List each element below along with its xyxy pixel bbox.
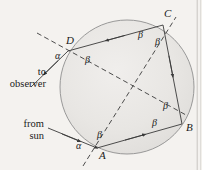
from-sun-line-2: sun: [0, 130, 44, 142]
angle-label-beta-b-upper: β: [163, 101, 168, 111]
vertex-label-c: C: [164, 8, 171, 19]
angle-label-beta-b-lower: β: [152, 118, 157, 128]
to-observer-line-2: observer: [0, 78, 46, 90]
vertex-label-a: A: [99, 150, 106, 161]
to-observer-line-1: to: [0, 66, 46, 78]
from-sun-line-1: from: [0, 118, 44, 130]
angle-label-beta-a: β: [97, 130, 102, 140]
to-observer-caption: to observer: [0, 66, 46, 90]
vertex-label-d: D: [66, 35, 74, 46]
from-sun-caption: from sun: [0, 118, 44, 142]
vertex-label-b: B: [186, 122, 193, 133]
raindrop-circle: [60, 20, 194, 154]
angle-label-beta-d: β: [85, 55, 90, 65]
angle-label-alpha-a: α: [76, 141, 81, 151]
angle-label-beta-c-right: β: [155, 37, 160, 47]
angle-label-alpha-d: α: [55, 51, 60, 61]
angle-label-beta-c-left: β: [138, 30, 143, 40]
